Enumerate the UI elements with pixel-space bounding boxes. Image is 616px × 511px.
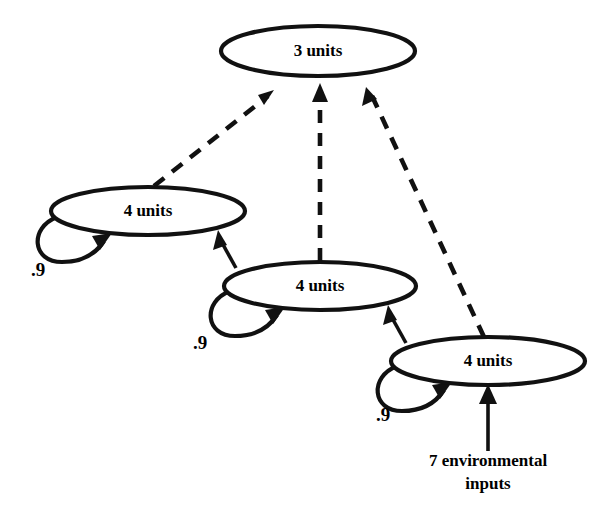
node-hidden-right[interactable]: 4 units <box>391 337 585 385</box>
environmental-input-label-line1: 7 environmental <box>429 451 547 470</box>
edge-hidden-middle-to-output-arrowhead <box>312 83 328 102</box>
node-hidden-middle-label: 4 units <box>296 276 345 295</box>
node-hidden-middle[interactable]: 4 units <box>224 262 416 310</box>
diagram-root: 3 units 4 units 4 units 4 units .9 .9 .9 <box>0 0 616 511</box>
weight-label-hidden-left: .9 <box>31 259 45 280</box>
node-hidden-left[interactable]: 4 units <box>51 187 245 235</box>
edge-hidden-left-to-output-line <box>154 96 268 186</box>
environmental-input-label-line2: inputs <box>465 474 511 493</box>
edge-hidden-right-to-hidden-middle <box>383 305 406 343</box>
weight-label-hidden-middle: .9 <box>193 332 207 353</box>
node-output[interactable]: 3 units <box>221 26 415 76</box>
edge-hidden-middle-to-output <box>312 83 328 261</box>
environmental-input-label: 7 environmental inputs <box>429 451 547 493</box>
node-hidden-left-label: 4 units <box>124 201 173 220</box>
network-diagram-canvas: 3 units 4 units 4 units 4 units .9 .9 .9 <box>0 0 616 511</box>
edge-input-to-hidden-right <box>479 384 497 451</box>
self-loop-hidden-left-arrowhead <box>92 233 112 250</box>
edge-hidden-left-to-output <box>154 90 274 186</box>
node-output-label: 3 units <box>294 41 343 60</box>
weight-label-hidden-right: .9 <box>376 404 390 425</box>
edge-hidden-left-to-output-arrowhead <box>258 90 274 105</box>
node-hidden-right-label: 4 units <box>464 351 513 370</box>
edge-hidden-middle-to-hidden-left <box>213 230 236 268</box>
